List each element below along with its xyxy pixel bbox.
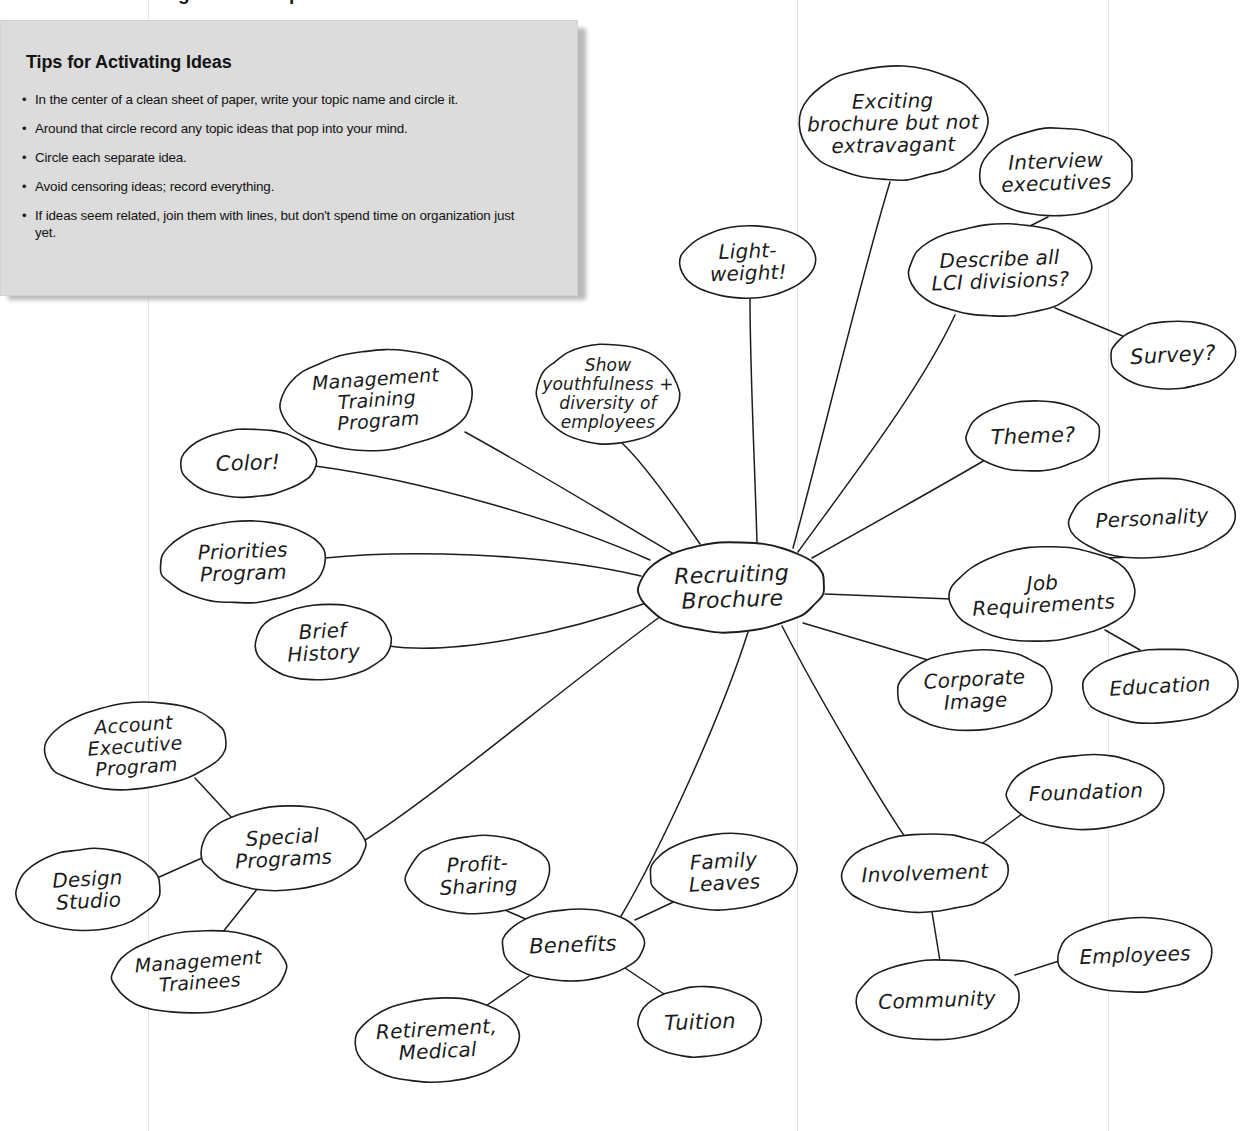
mind-map-edge [325,554,641,576]
mind-map-edge [480,972,535,1010]
mind-map-node-oval[interactable] [1068,478,1235,558]
mind-map-edge [222,888,258,933]
mind-map-node-oval[interactable] [799,66,988,180]
mind-map-edge [195,778,232,818]
mind-map-edge [825,594,951,599]
mind-map-node-oval[interactable] [536,344,680,444]
mind-map-node-oval[interactable] [980,128,1132,216]
mind-map-node-oval[interactable] [181,429,317,497]
mind-map-edge [362,616,661,842]
mind-map-node-oval[interactable] [160,521,325,603]
mind-map-edge [803,623,938,663]
mind-map-node-oval[interactable] [201,806,366,891]
mind-map-edge [465,432,677,556]
mind-map-node-oval[interactable] [680,226,816,298]
mind-map-node-oval[interactable] [1006,755,1164,830]
mind-map-edge [798,315,955,552]
mind-map-node-oval[interactable] [650,833,797,910]
mind-map-edge [389,602,649,648]
mind-map-node-oval[interactable] [405,835,549,914]
mind-map-node-oval[interactable] [842,834,1009,912]
mind-map-node-oval[interactable] [638,542,824,633]
mind-map-edge [1105,630,1140,650]
mind-map-node-oval[interactable] [255,604,391,679]
mind-map-ovals [16,66,1238,1082]
mind-map-node-oval[interactable] [502,909,644,981]
figure-canvas: FIGURE 4.2 ● Using a Mind Map Tips for A… [0,0,1254,1131]
mind-map-node-oval[interactable] [966,401,1100,471]
mind-map-svg [0,0,1254,1131]
mind-map-node-oval[interactable] [16,848,160,930]
mind-map-edge [1030,217,1048,226]
mind-map-node-oval[interactable] [1111,321,1236,389]
mind-map-edge [782,626,905,837]
mind-map-node-oval[interactable] [355,998,519,1082]
mind-map-node-oval[interactable] [908,224,1092,316]
mind-map-edge [932,912,940,961]
mind-map: Recruiting BrochureExciting brochure but… [0,0,1254,1131]
mind-map-node-oval[interactable] [856,960,1019,1040]
mind-map-node-oval[interactable] [1083,649,1238,723]
mind-map-node-oval[interactable] [638,986,762,1057]
mind-map-node-oval[interactable] [1058,918,1212,993]
mind-map-edge [1015,961,1059,975]
mind-map-edge [157,858,202,878]
mind-map-node-oval[interactable] [45,702,226,790]
mind-map-edge [750,299,757,543]
mind-map-node-oval[interactable] [280,350,472,451]
mind-map-node-oval[interactable] [949,547,1135,641]
mind-map-edge [1055,308,1125,337]
mind-map-edge [622,443,700,544]
mind-map-edge [315,466,650,560]
mind-map-node-oval[interactable] [898,650,1052,731]
mind-map-node-oval[interactable] [111,931,286,1013]
mind-map-edge [812,457,990,558]
